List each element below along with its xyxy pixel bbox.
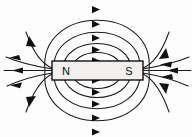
arrowhead-loop-5-top (92, 6, 100, 13)
arrowhead-loop-2-bottom (92, 89, 100, 96)
arrowhead-right-upper-outer (159, 48, 169, 59)
open-field-lines-right (143, 32, 191, 112)
arrowhead-loop-4-top (92, 21, 100, 28)
arrowhead-left-upper-outer (26, 36, 36, 47)
arrowhead-left-lower-outer (26, 96, 36, 107)
north-pole-label: N (62, 65, 70, 77)
arrowhead-left-upper-mid (9, 55, 21, 61)
field-line-canvas: N S (0, 0, 192, 137)
arrowhead-left-straight (12, 68, 23, 74)
south-pole-label: S (125, 65, 133, 77)
arrowhead-loop-5-bottom (92, 128, 100, 135)
arrowhead-right-straight (167, 68, 178, 74)
bar-magnet: N S (52, 61, 143, 80)
arrowhead-right-upper-mid (160, 62, 172, 68)
arrowhead-loop-3-top (92, 34, 100, 41)
arrowhead-loop-3-bottom (92, 100, 100, 107)
field-line-left-upper-outer (26, 32, 52, 68)
magnetic-field-diagram: N S (0, 0, 192, 137)
field-line-right-lower-outer (143, 74, 169, 112)
